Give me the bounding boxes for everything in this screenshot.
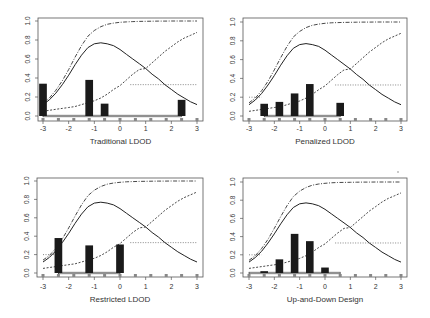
design-point-marker: [42, 274, 45, 277]
allocation-bar: [306, 241, 314, 273]
x-tick-label: 3: [195, 283, 199, 290]
curve-dashdot: [43, 21, 197, 103]
x-tick-label: 1: [144, 283, 148, 290]
design-point-marker: [354, 274, 357, 277]
design-point-marker: [339, 118, 342, 121]
x-tick-label: -3: [246, 125, 252, 132]
design-point-marker: [308, 118, 311, 121]
plot-frame: [243, 178, 407, 277]
design-point-marker: [180, 274, 183, 277]
design-point-marker: [180, 118, 183, 121]
allocation-bar: [55, 238, 63, 273]
x-tick-label: 2: [169, 125, 173, 132]
design-point-marker: [119, 274, 122, 277]
y-tick-label: 0.4: [24, 73, 31, 82]
x-tick-label: -2: [66, 283, 72, 290]
y-tick-label: 0.0: [24, 111, 31, 120]
curve-dashdot: [249, 182, 401, 260]
y-tick-label: 0.8: [229, 36, 236, 45]
x-tick-label: 2: [169, 283, 173, 290]
design-point-marker: [72, 274, 75, 277]
x-tick-label: -1: [297, 125, 303, 132]
x-tick-label: -1: [91, 125, 97, 132]
allocation-bar: [276, 102, 284, 116]
x-tick-label: 0: [323, 283, 327, 290]
design-point-marker: [149, 274, 152, 277]
design-point-marker: [263, 274, 266, 277]
y-tick-label: 1.0: [24, 16, 31, 25]
x-tick-label: -2: [66, 125, 72, 132]
x-tick-label: 3: [399, 283, 403, 290]
x-tick-label: -3: [40, 125, 46, 132]
panel-xlabel: Traditional LDOD: [90, 137, 152, 146]
x-tick-label: 3: [399, 125, 403, 132]
allocation-bar: [291, 93, 299, 116]
panel-traditional-ldod: -3-2-101230.00.20.40.60.81.0Traditional …: [24, 16, 203, 146]
design-point-marker: [88, 274, 91, 277]
design-point-marker: [72, 118, 75, 121]
design-point-marker: [308, 274, 311, 277]
design-point-marker: [103, 118, 106, 121]
design-point-marker: [293, 274, 296, 277]
x-tick-label: 3: [195, 125, 199, 132]
x-tick-label: 1: [348, 125, 352, 132]
x-tick-label: -1: [91, 283, 97, 290]
design-point-marker: [384, 274, 387, 277]
y-tick-label: 0.2: [229, 92, 236, 101]
allocation-bar: [291, 234, 299, 273]
design-point-marker: [369, 274, 372, 277]
panel-up-and-down-design: -3-2-101230.00.20.40.60.81.0Up-and-Down …: [229, 177, 407, 304]
figure-2x2-panels: -3-2-101230.00.20.40.60.81.0Traditional …: [0, 0, 430, 318]
design-point-marker: [248, 118, 251, 121]
design-point-marker: [293, 118, 296, 121]
design-point-marker: [134, 274, 137, 277]
y-tick-label: 0.6: [229, 55, 236, 64]
curve-dashed: [249, 193, 401, 269]
curve-dashed: [43, 32, 197, 111]
design-point-marker: [134, 118, 137, 121]
design-point-marker: [339, 274, 342, 277]
design-point-marker: [263, 118, 266, 121]
design-point-marker: [57, 118, 60, 121]
x-tick-label: 1: [144, 125, 148, 132]
x-tick-label: 0: [118, 125, 122, 132]
panel-xlabel: Up-and-Down Design: [287, 295, 363, 304]
design-point-marker: [369, 118, 372, 121]
y-tick-label: 0.4: [229, 74, 236, 83]
stray-mark: [397, 171, 399, 173]
y-tick-label: 0.6: [23, 213, 30, 222]
design-point-marker: [149, 118, 152, 121]
design-point-marker: [88, 118, 91, 121]
panel-restricted-ldod: -3-2-101230.00.20.40.60.81.0Restricted L…: [23, 176, 203, 304]
y-tick-label: 0.6: [24, 54, 31, 63]
panel-penalized-ldod: -3-2-101230.00.20.40.60.81.0Penalized LD…: [229, 17, 407, 146]
y-tick-label: 0.0: [229, 268, 236, 277]
y-tick-label: 1.0: [229, 177, 236, 186]
allocation-bar: [178, 100, 186, 116]
design-point-marker: [57, 274, 60, 277]
design-point-marker: [103, 274, 106, 277]
x-tick-label: 1: [348, 283, 352, 290]
design-point-marker: [400, 118, 403, 121]
x-tick-label: -2: [271, 125, 277, 132]
allocation-bar: [85, 80, 93, 116]
design-point-marker: [165, 274, 168, 277]
x-tick-label: 2: [374, 283, 378, 290]
design-point-marker: [384, 118, 387, 121]
x-tick-label: -1: [297, 283, 303, 290]
y-tick-label: 0.2: [23, 250, 30, 259]
panel-xlabel: Restricted LDOD: [90, 295, 151, 304]
panel-xlabel: Penalized LDOD: [295, 137, 355, 146]
y-tick-label: 0.8: [23, 195, 30, 204]
y-tick-label: 0.2: [24, 92, 31, 101]
y-tick-label: 0.6: [229, 214, 236, 223]
x-tick-label: -3: [246, 283, 252, 290]
allocation-bar: [276, 259, 284, 273]
allocation-bar: [306, 84, 314, 116]
allocation-bar: [321, 268, 329, 273]
allocation-bar: [39, 84, 47, 116]
allocation-bar: [101, 104, 109, 116]
allocation-bar: [260, 271, 268, 273]
design-point-marker: [278, 118, 281, 121]
y-tick-label: 1.0: [229, 17, 236, 26]
